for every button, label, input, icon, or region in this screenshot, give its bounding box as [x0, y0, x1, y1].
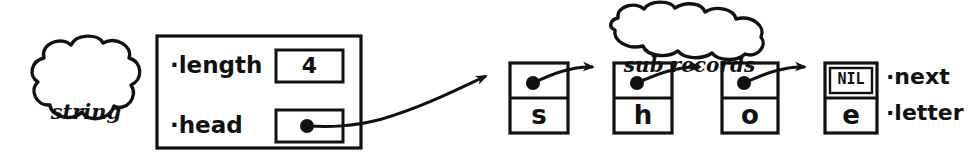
- next-label: ·next: [886, 66, 950, 88]
- length-value: 4: [276, 55, 343, 77]
- node-e-next-nil: NIL: [830, 72, 872, 87]
- field-label-length: ·length: [170, 54, 262, 77]
- node-h-letter: h: [614, 102, 672, 128]
- cloud-line-1: string: [40, 101, 132, 122]
- cloud-string-record-label: string record: [40, 58, 132, 163]
- cloud-line-1: sub records: [612, 55, 767, 75]
- diagram-canvas: string record sub records ·length ·head …: [0, 0, 971, 163]
- field-label-head: ·head: [170, 114, 243, 137]
- node-s-letter: s: [510, 102, 568, 128]
- node-e-letter: e: [825, 102, 877, 128]
- letter-label: ·letter: [886, 102, 964, 124]
- diagram-vector-layer: [0, 0, 971, 163]
- node-o-letter: o: [722, 102, 778, 128]
